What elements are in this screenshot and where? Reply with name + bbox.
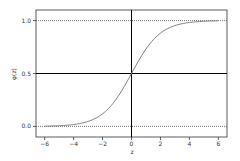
x-tick-label: −2: [98, 140, 107, 147]
y-tick-label: 0.0: [21, 122, 31, 129]
x-axis-label: z: [130, 148, 133, 155]
x-tick-label: 4: [187, 140, 191, 147]
x-tick-label: −4: [69, 140, 78, 147]
y-tick-label: 0.5: [21, 70, 31, 77]
sigmoid-chart: −6−4−20246 0.00.51.0 z φ(z): [0, 0, 240, 161]
x-tick-label: 6: [216, 140, 220, 147]
y-axis-label: φ(z): [10, 68, 18, 80]
x-tick-label: −6: [40, 140, 49, 147]
x-tick-label: 0: [130, 140, 134, 147]
x-axis-ticks: −6−4−20246: [40, 137, 220, 147]
x-tick-label: 2: [159, 140, 163, 147]
y-axis-ticks: 0.00.51.0: [21, 17, 36, 130]
y-tick-label: 1.0: [21, 17, 31, 24]
